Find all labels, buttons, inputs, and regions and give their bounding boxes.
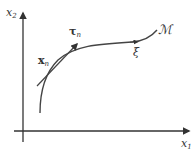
point-label: xn [38,54,50,68]
manifold-curve [40,30,157,113]
tangent-label: τn [69,25,81,39]
manifold-label: ℳ [158,22,174,37]
xi-label: ξ [133,46,140,59]
y-axis-label: x2 [6,6,17,20]
manifold-diagram: x2 x1 xn τn ξ ℳ [0,0,196,153]
x-axis-label: x1 [181,137,192,151]
